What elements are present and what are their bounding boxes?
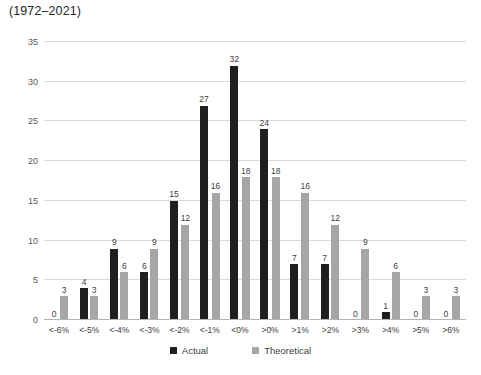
x-axis-tick-label: >1%	[285, 325, 315, 335]
bar-actual	[110, 249, 118, 320]
bar-group-actual: 27	[199, 42, 208, 320]
bar-group-theoretical: 12	[181, 42, 190, 320]
bar-value-label: 4	[82, 278, 87, 287]
bar-value-label: 6	[393, 262, 398, 271]
category-group: 96	[104, 42, 134, 320]
bar-value-label: 32	[229, 55, 238, 64]
bar-group-theoretical: 12	[331, 42, 340, 320]
x-axis-line	[44, 319, 466, 320]
bar-group-theoretical: 9	[150, 42, 158, 320]
category-group: 2716	[195, 42, 225, 320]
x-axis-tick-label: >6%	[436, 325, 466, 335]
bar-group-theoretical: 6	[392, 42, 400, 320]
x-axis-tick-label: <-2%	[165, 325, 195, 335]
legend-label: Actual	[182, 345, 208, 356]
legend-item-actual: Actual	[170, 345, 208, 356]
category-group: 712	[315, 42, 345, 320]
bar-theoretical	[242, 177, 250, 320]
bar-value-label: 3	[423, 286, 428, 295]
bar-group-actual: 32	[229, 42, 238, 320]
bar-value-label: 9	[112, 238, 117, 247]
bar-theoretical	[361, 249, 369, 320]
bar-value-label: 18	[271, 167, 280, 176]
bar-value-label: 3	[454, 286, 459, 295]
category-group: 09	[345, 42, 375, 320]
bar-theoretical	[60, 296, 68, 320]
bar-theoretical	[120, 272, 128, 320]
bar-group-theoretical: 6	[120, 42, 128, 320]
chart-title: (1972–2021)	[9, 4, 81, 18]
bar-value-label: 12	[181, 214, 190, 223]
bar-theoretical	[212, 193, 220, 320]
bar-actual	[170, 201, 178, 320]
x-axis-tick-label: >4%	[376, 325, 406, 335]
bar-theoretical	[452, 296, 460, 320]
category-group: 716	[285, 42, 315, 320]
bar-group-actual: 4	[80, 42, 88, 320]
bars-row: 03439669151227163218241871671209160303	[44, 42, 466, 320]
bar-theoretical	[90, 296, 98, 320]
bar-actual	[290, 264, 298, 320]
y-axis-tick-label: 15	[28, 196, 38, 205]
category-group: 43	[74, 42, 104, 320]
bar-group-theoretical: 3	[452, 42, 460, 320]
x-axis-tick-label: <-4%	[104, 325, 134, 335]
bar-group-actual: 24	[260, 42, 269, 320]
bar-group-actual: 15	[169, 42, 178, 320]
bar-group-actual: 0	[50, 42, 58, 320]
bar-value-label: 27	[199, 95, 208, 104]
x-axis-tick-label: >5%	[406, 325, 436, 335]
bar-value-label: 18	[241, 167, 250, 176]
category-group: 03	[44, 42, 74, 320]
bar-value-label: 0	[353, 310, 358, 319]
bar-theoretical	[181, 225, 189, 320]
bar-value-label: 24	[260, 119, 269, 128]
bar-actual	[80, 288, 88, 320]
bar-theoretical	[150, 249, 158, 320]
bar-value-label: 9	[152, 238, 157, 247]
legend-swatch-icon	[252, 347, 259, 354]
x-axis-tick-label: <0%	[225, 325, 255, 335]
bar-theoretical	[301, 193, 309, 320]
y-axis-tick-label: 10	[28, 236, 38, 245]
category-group: 16	[376, 42, 406, 320]
x-axis-tick-label: <-1%	[195, 325, 225, 335]
category-group: 03	[436, 42, 466, 320]
category-group: 2418	[255, 42, 285, 320]
bar-value-label: 6	[142, 262, 147, 271]
bar-group-actual: 7	[290, 42, 298, 320]
y-axis: 05101520253035	[14, 42, 38, 320]
y-axis-tick-label: 25	[28, 117, 38, 126]
bar-value-label: 1	[383, 302, 388, 311]
x-axis-tick-label: <-6%	[44, 325, 74, 335]
bar-actual	[260, 129, 268, 320]
bar-actual	[230, 66, 238, 320]
bar-value-label: 3	[92, 286, 97, 295]
bar-value-label: 15	[169, 190, 178, 199]
bar-theoretical	[331, 225, 339, 320]
bar-actual	[140, 272, 148, 320]
bar-group-theoretical: 3	[422, 42, 430, 320]
legend-label: Theoretical	[264, 345, 311, 356]
bar-group-actual: 1	[382, 42, 390, 320]
bar-group-theoretical: 18	[241, 42, 250, 320]
legend-swatch-icon	[170, 347, 177, 354]
bar-group-theoretical: 16	[300, 42, 309, 320]
bar-group-theoretical: 9	[361, 42, 369, 320]
bar-theoretical	[392, 272, 400, 320]
bar-group-theoretical: 16	[211, 42, 220, 320]
bar-value-label: 7	[322, 254, 327, 263]
bar-theoretical	[422, 296, 430, 320]
y-axis-tick-label: 0	[33, 316, 38, 325]
y-axis-tick-label: 5	[33, 276, 38, 285]
category-group: 69	[134, 42, 164, 320]
x-axis-tick-label: <-3%	[134, 325, 164, 335]
bar-value-label: 3	[62, 286, 67, 295]
bar-value-label: 0	[52, 310, 57, 319]
bar-theoretical	[272, 177, 280, 320]
x-axis-tick-label: <-5%	[74, 325, 104, 335]
y-axis-tick-label: 30	[28, 77, 38, 86]
bar-value-label: 16	[211, 182, 220, 191]
bar-group-theoretical: 18	[271, 42, 280, 320]
bar-value-label: 16	[300, 182, 309, 191]
